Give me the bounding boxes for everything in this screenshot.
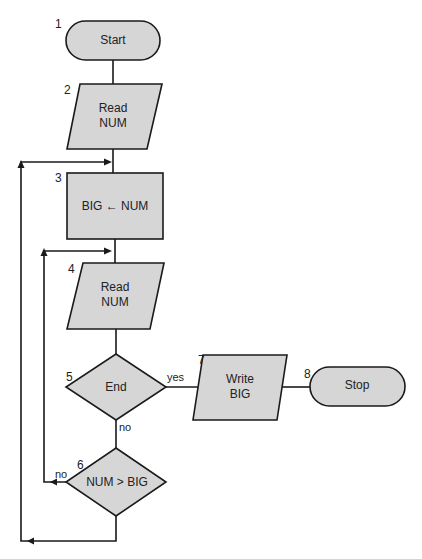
- edge-label-no: no: [119, 421, 131, 433]
- node-number: 8: [304, 367, 311, 381]
- node-number: 7: [198, 353, 205, 367]
- node-number: 3: [55, 171, 62, 185]
- node-label-line1: Read: [99, 101, 128, 115]
- node-number: 5: [66, 370, 73, 384]
- node-read-num-2: Read NUM 4: [67, 262, 164, 329]
- node-label-line1: Write: [226, 372, 254, 386]
- node-number: 1: [55, 17, 62, 31]
- arrow-into-read2-icon: [104, 248, 112, 255]
- node-label-line2: NUM: [101, 295, 128, 309]
- node-write-big: Write BIG 7: [193, 353, 287, 420]
- edge-label-yes: yes: [167, 371, 185, 383]
- node-number: 6: [77, 458, 84, 472]
- node-label: End: [105, 380, 126, 394]
- node-label: Stop: [345, 378, 370, 392]
- node-compare-decision: NUM > BIG 6 no: [55, 448, 166, 516]
- node-label: NUM > BIG: [86, 475, 148, 489]
- node-label-line2: BIG: [230, 387, 251, 401]
- arrow-into-assign-icon: [104, 159, 112, 166]
- edge-label-no: no: [55, 468, 67, 480]
- node-stop: Stop 8: [304, 367, 405, 406]
- node-number: 4: [68, 262, 75, 276]
- node-assign-big: BIG ← NUM 3: [55, 171, 163, 239]
- node-label: BIG ← NUM: [82, 199, 149, 213]
- node-read-num-1: Read NUM 2: [64, 83, 162, 149]
- arrow-left-outer-icon: [27, 538, 34, 545]
- node-start: Start 1: [55, 17, 160, 60]
- node-label-line2: NUM: [99, 116, 126, 130]
- node-end-decision: End 5 yes no: [66, 354, 185, 433]
- node-number: 2: [64, 83, 71, 97]
- flowchart-canvas: Start 1 Read NUM 2 BIG ← NUM 3 Read NUM …: [0, 0, 422, 559]
- node-label-line1: Read: [101, 280, 130, 294]
- node-label: Start: [100, 33, 126, 47]
- arrow-up-inner-icon: [41, 248, 48, 256]
